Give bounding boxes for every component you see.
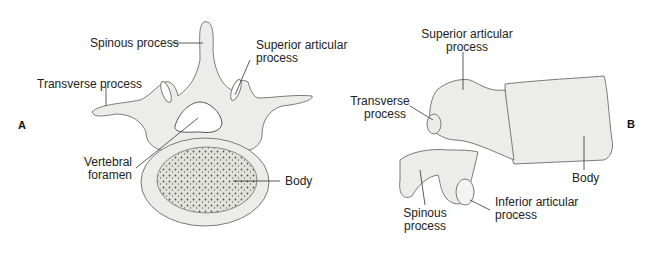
label-spinous-process-b-line2: process <box>400 220 450 233</box>
label-body-b: Body <box>572 172 599 185</box>
label-body-a: Body <box>285 175 312 188</box>
vertebra-figure: A Spinous process Superior articular pro… <box>0 0 650 253</box>
label-superior-articular-b-line2: process <box>412 41 522 54</box>
label-transverse-process-a: Transverse process <box>37 78 142 91</box>
label-superior-articular-a-line2: process <box>256 52 298 65</box>
label-transverse-process-b-line2: process <box>350 108 420 121</box>
panel-a-letter: A <box>18 119 26 131</box>
label-vertebral-foramen-line2: foramen <box>82 169 132 182</box>
panel-b-vertebra <box>400 76 613 205</box>
label-spinous-process-a: Spinous process <box>90 37 179 50</box>
label-inferior-articular-line2: process <box>495 209 537 222</box>
panel-b-letter: B <box>627 118 635 130</box>
